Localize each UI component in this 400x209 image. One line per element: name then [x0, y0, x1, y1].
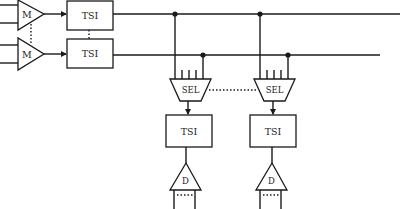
selector-2: SEL [254, 79, 295, 101]
sel2-label: SEL [266, 85, 284, 95]
output-tsi-1: TSI [166, 115, 212, 147]
input-tsi2-label: TSI [82, 48, 99, 59]
input-mux-1: M [0, 0, 44, 30]
input-mux-2: M [0, 38, 44, 70]
tsi-switch-diagram: M M TSI TSI SEL SEL [0, 0, 400, 209]
demux2-label: D [268, 176, 275, 186]
output-demux-1: D [170, 163, 201, 209]
selector-1: SEL [170, 79, 211, 101]
mux1-label: M [22, 9, 32, 20]
input-tsi-2: TSI [67, 39, 113, 68]
output-tsi1-label: TSI [181, 126, 198, 137]
sel1-label: SEL [182, 85, 200, 95]
input-tsi1-label: TSI [82, 10, 99, 21]
output-demux-2: D [256, 163, 287, 209]
input-tsi-1: TSI [67, 1, 113, 30]
mux2-label: M [22, 49, 32, 60]
output-tsi-2: TSI [250, 115, 296, 147]
demux1-label: D [182, 176, 189, 186]
output-tsi2-label: TSI [265, 126, 282, 137]
